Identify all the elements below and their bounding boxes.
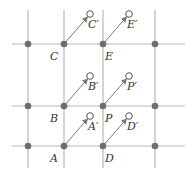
label-b-prime: B′ xyxy=(87,80,99,93)
image-point-p-prime xyxy=(126,73,133,80)
lattice-point xyxy=(152,41,159,48)
lattice-point xyxy=(25,41,32,48)
label-p: P xyxy=(104,112,113,125)
image-point-e-prime xyxy=(126,11,133,18)
label-d: D xyxy=(104,152,114,165)
image-point-a-prime xyxy=(87,113,94,120)
label-d-prime: D′ xyxy=(126,120,139,133)
lattice-point xyxy=(61,41,68,48)
lattice-point xyxy=(61,143,68,150)
label-e-prime: E′ xyxy=(126,18,138,31)
label-c-prime: C′ xyxy=(88,18,99,31)
image-point-b-prime xyxy=(87,73,94,80)
label-p-prime: P′ xyxy=(126,80,137,93)
lattice-translation-diagram: AA′DD′BB′PP′CC′EE′ xyxy=(0,0,195,177)
lattice-point xyxy=(100,143,107,150)
lattice-point xyxy=(25,143,32,150)
translation-arrow-p xyxy=(103,79,126,106)
label-e: E xyxy=(104,50,113,63)
translation-arrow-a xyxy=(64,119,87,146)
label-b: B xyxy=(49,112,58,125)
label-c: C xyxy=(50,50,59,63)
lattice-point xyxy=(152,103,159,110)
translation-arrow-b xyxy=(64,79,87,106)
image-point-d-prime xyxy=(126,113,133,120)
lattice-point xyxy=(152,143,159,150)
label-a-prime: A′ xyxy=(87,120,99,133)
lattice-point xyxy=(100,103,107,110)
translation-arrow-c xyxy=(64,17,87,44)
lattice-point xyxy=(100,41,107,48)
lattice-point xyxy=(61,103,68,110)
point-labels: AA′DD′BB′PP′CC′EE′ xyxy=(49,18,139,165)
lattice-point xyxy=(25,103,32,110)
image-point-c-prime xyxy=(87,11,94,18)
translation-arrow-e xyxy=(103,17,126,44)
label-a: A xyxy=(49,152,58,165)
lattice-dots xyxy=(25,41,159,150)
